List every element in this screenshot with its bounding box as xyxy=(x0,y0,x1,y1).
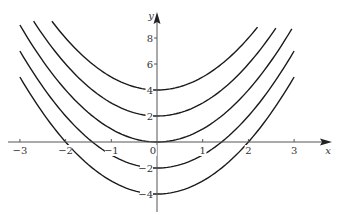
y-tick-label: −2 xyxy=(138,163,153,174)
parabola-curve xyxy=(20,25,292,142)
y-tick-label: −4 xyxy=(138,189,153,200)
x-tick-label: 0 xyxy=(150,145,156,156)
y-tick-label: 6 xyxy=(147,59,153,70)
x-tick-label: −1 xyxy=(104,145,119,156)
y-tick-label: 4 xyxy=(147,85,153,96)
x-tick-label: −2 xyxy=(58,145,73,156)
x-tick-label: 3 xyxy=(291,145,297,156)
y-tick-label: 8 xyxy=(147,33,153,44)
x-tick-label: 2 xyxy=(245,145,251,156)
chart-plot: −3−2−10123−4−22468xy xyxy=(0,0,340,215)
parabola-curve xyxy=(34,21,276,116)
x-axis-label: x xyxy=(325,145,331,156)
x-tick-label: 1 xyxy=(200,145,206,156)
tick-labels: −3−2−10123−4−22468xy xyxy=(13,10,332,200)
y-axis-label: y xyxy=(147,10,154,21)
x-tick-label: −3 xyxy=(13,145,28,156)
parabola-curve xyxy=(52,21,258,90)
y-tick-label: 2 xyxy=(147,111,153,122)
